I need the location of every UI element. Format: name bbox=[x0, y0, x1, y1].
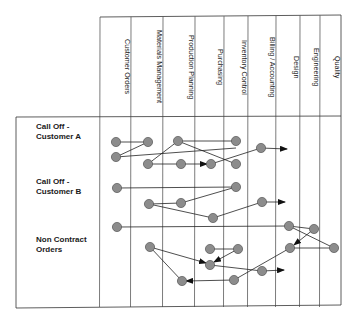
process-step-dot bbox=[284, 221, 293, 230]
process-step-dot bbox=[309, 224, 318, 233]
row-header: Call Off - Customer B bbox=[36, 177, 81, 197]
process-step-dot bbox=[145, 242, 154, 251]
process-step-dot bbox=[208, 213, 217, 222]
flow-line bbox=[116, 148, 236, 157]
row-header: Non Contract Orders bbox=[36, 235, 87, 255]
process-step-dot bbox=[329, 243, 338, 252]
process-step-dot bbox=[111, 137, 120, 146]
process-step-dot bbox=[229, 275, 238, 284]
flow-line bbox=[178, 141, 236, 164]
process-step-dot bbox=[206, 159, 215, 168]
process-step-dot bbox=[205, 244, 214, 253]
process-step-dot bbox=[111, 152, 120, 161]
flow-line bbox=[150, 247, 182, 281]
process-step-dot bbox=[205, 260, 214, 269]
process-step-dot bbox=[231, 159, 240, 168]
process-step-dot bbox=[257, 266, 266, 275]
process-step-dots bbox=[111, 136, 338, 285]
process-step-dot bbox=[233, 244, 242, 253]
process-step-dot bbox=[231, 182, 240, 191]
process-step-dot bbox=[112, 183, 121, 192]
process-step-dot bbox=[173, 136, 182, 145]
process-step-dot bbox=[177, 276, 186, 285]
column-header: Materials Management bbox=[131, 22, 163, 112]
flow-line bbox=[213, 202, 262, 218]
column-header: Design bbox=[276, 22, 300, 112]
process-step-dot bbox=[112, 222, 121, 231]
process-step-dot bbox=[144, 199, 153, 208]
flow-arrow bbox=[150, 247, 206, 263]
process-step-dot bbox=[285, 243, 294, 252]
column-header: Inventory Control bbox=[224, 22, 248, 112]
column-header: Customer Orders bbox=[100, 22, 131, 112]
process-step-dot bbox=[143, 159, 152, 168]
column-header: Billing / Accounting bbox=[248, 22, 276, 112]
row-header: Call Off - Customer A bbox=[36, 122, 81, 142]
process-step-dot bbox=[176, 198, 185, 207]
column-header: Purchasing bbox=[195, 22, 224, 112]
flow-arrow bbox=[186, 280, 234, 281]
process-step-dot bbox=[256, 143, 265, 152]
column-header: Production Planning bbox=[163, 22, 195, 112]
flow-line bbox=[117, 187, 236, 188]
process-step-dot bbox=[231, 136, 240, 145]
process-step-dot bbox=[176, 159, 185, 168]
flow-line bbox=[181, 187, 236, 203]
process-step-dot bbox=[143, 137, 152, 146]
column-header: Engineering bbox=[300, 22, 320, 112]
flow-line bbox=[117, 226, 289, 227]
column-header: Quality bbox=[320, 22, 341, 112]
process-step-dot bbox=[257, 197, 266, 206]
